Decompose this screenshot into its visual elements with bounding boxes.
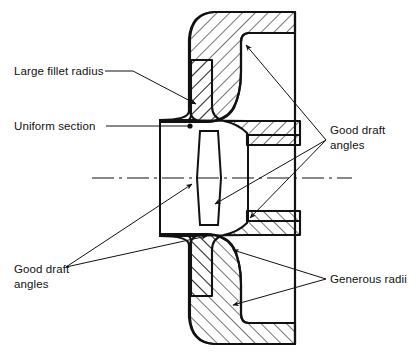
leader-good-draft-left-b (66, 236, 207, 267)
bore-left-wall-upper (197, 131, 200, 178)
label-good-draft-angles-right-line2: angles (330, 139, 365, 151)
bore-right-wall-upper (218, 131, 221, 178)
label-good-draft-angles-left-line1: Good draft (14, 263, 70, 275)
leader-generous-radii-a (233, 250, 326, 279)
leader-good-draft-right-c (250, 140, 326, 218)
part-section-body-lower (160, 178, 300, 344)
leader-large-fillet-radius (105, 71, 196, 104)
leader-generous-radii-b (233, 279, 326, 305)
label-large-fillet-radius: Large fillet radius (14, 65, 104, 77)
leader-good-draft-right-b (215, 140, 326, 204)
leader-dot-uniform-section (187, 123, 192, 128)
leader-good-draft-left-a (66, 184, 192, 267)
label-good-draft-angles-right-line1: Good draft (330, 124, 386, 136)
label-good-draft-angles-left-line2: angles (14, 278, 49, 290)
label-uniform-section: Uniform section (14, 120, 95, 132)
figure-container: Large fillet radius Uniform section Good… (0, 0, 416, 354)
label-generous-radii: Generous radii (330, 273, 407, 285)
bore-left-wall-lower (197, 178, 200, 225)
cross-section-drawing: Large fillet radius Uniform section Good… (0, 0, 416, 354)
